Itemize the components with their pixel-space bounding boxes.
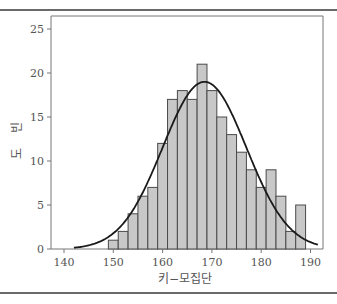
- x-tick-label: 190: [300, 256, 321, 269]
- y-axis: 0510152025: [30, 23, 51, 256]
- histogram-bar: [207, 91, 217, 249]
- histogram-bar: [118, 231, 128, 249]
- histogram-bar: [296, 205, 306, 249]
- histogram-bar: [197, 64, 207, 249]
- histogram-chart: 0510152025 140150160170180190 키−모집단 빈도: [0, 0, 337, 304]
- y-axis-label-char: 도: [10, 148, 24, 159]
- histogram-bars: [108, 64, 305, 249]
- x-tick-label: 170: [201, 256, 222, 269]
- y-tick-label: 10: [30, 155, 44, 168]
- histogram-bar: [138, 196, 148, 249]
- histogram-bar: [177, 91, 187, 249]
- histogram-bar: [286, 231, 296, 249]
- histogram-bar: [217, 117, 227, 249]
- histogram-bar: [128, 214, 138, 249]
- y-tick-label: 0: [37, 243, 44, 256]
- y-tick-label: 15: [30, 111, 44, 124]
- histogram-bar: [237, 152, 247, 249]
- x-tick-label: 180: [251, 256, 272, 269]
- y-tick-label: 25: [30, 23, 44, 36]
- y-tick-label: 5: [37, 199, 44, 212]
- histogram-bar: [108, 240, 118, 249]
- x-axis-label: 키−모집단: [158, 272, 212, 286]
- x-tick-label: 140: [54, 256, 75, 269]
- histogram-bar: [168, 99, 178, 249]
- histogram-bar: [227, 135, 237, 249]
- y-axis-label-char: 빈: [10, 122, 24, 133]
- histogram-bar: [158, 143, 168, 249]
- y-tick-label: 20: [30, 67, 44, 80]
- histogram-bar: [266, 170, 276, 249]
- x-tick-label: 150: [103, 256, 124, 269]
- y-axis-label: 빈도: [10, 122, 24, 159]
- histogram-bar: [187, 99, 197, 249]
- x-tick-label: 160: [152, 256, 173, 269]
- x-axis: 140150160170180190: [54, 249, 322, 269]
- histogram-bar: [256, 187, 266, 249]
- histogram-bar: [148, 187, 158, 249]
- histogram-bar: [246, 170, 256, 249]
